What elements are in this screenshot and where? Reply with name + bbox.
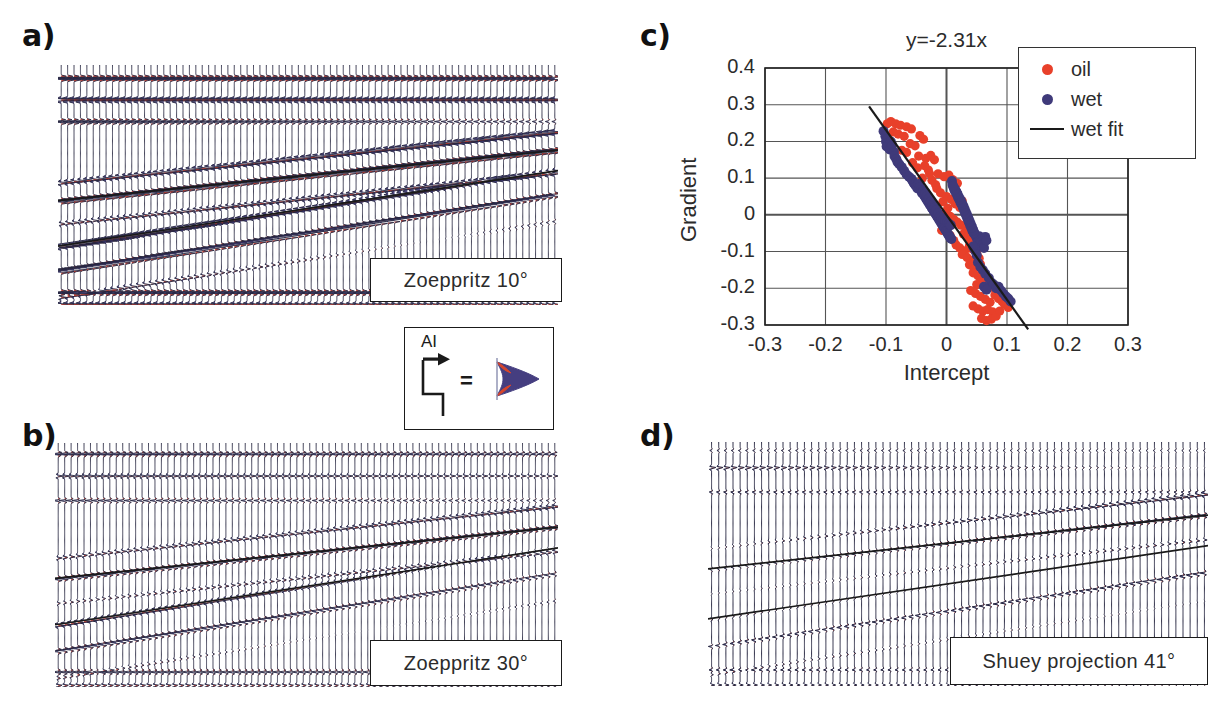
figure-root: a) Zoeppritz 10° AI = [0, 0, 1227, 711]
legend-label-wet-fit: wet fit [1067, 118, 1123, 141]
legend-label-wet: wet [1067, 88, 1102, 111]
caption-box-d: Shuey projection 41° [950, 637, 1208, 685]
y-tick-label: 0.2 [727, 128, 755, 151]
horizon-line-1 [55, 527, 558, 578]
y-tick-label: -0.1 [721, 239, 755, 262]
wet-fit-line [869, 106, 1028, 329]
x-tick-label: -0.2 [796, 333, 856, 356]
legend-item-wet-fit: wet fit [1027, 114, 1185, 144]
y-tick-label: -0.2 [721, 275, 755, 298]
legend-item-wet: wet [1027, 84, 1185, 114]
caption-text-b: Zoeppritz 30° [404, 652, 528, 675]
y-tick-label: 0.3 [727, 92, 755, 115]
scatter-plot-c: y=-2.31x Gradient Intercept -0.3-0.2-0.1… [0, 0, 1227, 400]
y-tick-label: 0.1 [727, 165, 755, 188]
x-tick-label: -0.3 [735, 333, 795, 356]
y-tick-label: 0 [744, 202, 755, 225]
legend-label-oil: oil [1067, 58, 1091, 81]
caption-box-b: Zoeppritz 30° [370, 640, 562, 686]
wet-marker-icon [1027, 94, 1067, 105]
x-tick-label: 0.2 [1038, 333, 1098, 356]
legend-item-oil: oil [1027, 54, 1185, 84]
x-tick-label: 0.3 [1098, 333, 1158, 356]
plot-legend: oil wet wet fit [1018, 47, 1196, 159]
y-tick-label: 0.4 [727, 55, 755, 78]
panel-label-d: d) [640, 418, 674, 453]
wet-fit-line-icon [1027, 128, 1067, 130]
x-tick-label: -0.1 [856, 333, 916, 356]
y-tick-label: -0.3 [721, 312, 755, 335]
horizon-line-2 [55, 548, 558, 625]
x-tick-label: 0.1 [977, 333, 1037, 356]
oil-marker-icon [1027, 64, 1067, 75]
x-tick-label: 0 [917, 333, 977, 356]
panel-label-b: b) [22, 418, 56, 453]
caption-text-d: Shuey projection 41° [983, 650, 1176, 673]
